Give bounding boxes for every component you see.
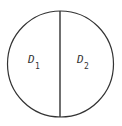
svg-text:D: D	[27, 53, 35, 66]
region-label-d2: D 2	[76, 53, 89, 71]
svg-text:D: D	[76, 53, 84, 66]
svg-text:1: 1	[35, 62, 40, 71]
region-label-d1: D 1	[27, 53, 40, 71]
region-diagram: D 1 D 2	[0, 0, 122, 126]
svg-text:2: 2	[84, 62, 89, 71]
